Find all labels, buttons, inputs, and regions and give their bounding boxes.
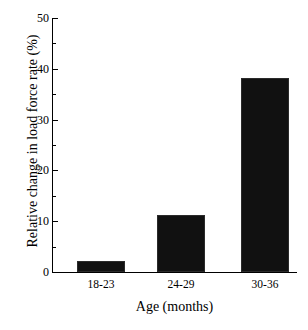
bar-24-29 (157, 215, 205, 272)
y-tick-minor-35 (53, 94, 56, 95)
y-tick-minor-15 (53, 196, 56, 197)
y-tick-major-40: 40 (53, 69, 58, 70)
x-tick-label-30-36: 30-36 (241, 277, 289, 291)
y-tick-label-10: 10 (37, 215, 49, 227)
plot-area: 0 10 20 30 40 50 18-23 24-29 30-36 (52, 18, 297, 273)
bar-chart-figure: Relative change in load force rate (%) 0… (0, 0, 308, 330)
x-axis-title: Age (months) (52, 298, 297, 316)
x-tick-label-24-29: 24-29 (157, 277, 205, 291)
y-tick-minor-25 (53, 145, 56, 146)
y-tick-label-30: 30 (37, 114, 49, 126)
y-tick-major-10: 10 (53, 221, 58, 222)
y-tick-label-40: 40 (37, 63, 49, 75)
x-axis-spine (52, 272, 297, 273)
y-tick-major-30: 30 (53, 120, 58, 121)
y-tick-major-50: 50 (53, 18, 58, 19)
bar-18-23 (77, 261, 125, 272)
y-tick-minor-5 (53, 247, 56, 248)
y-tick-label-50: 50 (37, 12, 49, 24)
y-tick-label-0: 0 (43, 266, 49, 278)
y-tick-label-20: 20 (37, 164, 49, 176)
bar-30-36 (241, 78, 289, 272)
x-tick-label-18-23: 18-23 (77, 277, 125, 291)
y-tick-minor-45 (53, 43, 56, 44)
y-tick-major-0: 0 (53, 272, 58, 273)
y-tick-major-20: 20 (53, 170, 58, 171)
y-axis-title: Relative change in load force rate (%) (22, 1, 44, 281)
